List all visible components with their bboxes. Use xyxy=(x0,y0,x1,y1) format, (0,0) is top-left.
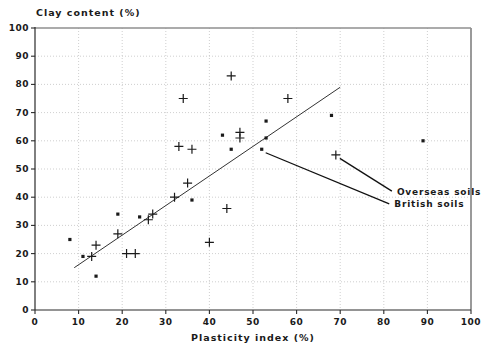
y-tick-label-70: 70 xyxy=(15,108,29,118)
y-tick-label-90: 90 xyxy=(15,51,29,61)
british-soils-point xyxy=(330,114,333,117)
british-soils-point xyxy=(230,148,233,151)
y-tick-label-30: 30 xyxy=(15,220,29,230)
data-points xyxy=(68,71,424,277)
y-tick-label-20: 20 xyxy=(15,249,29,259)
overseas-soils-point xyxy=(131,249,140,258)
british-soils-point xyxy=(221,134,224,137)
y-tick-label-50: 50 xyxy=(15,164,29,174)
british-soils-point xyxy=(190,198,193,201)
y-axis-title: Clay content (%) xyxy=(36,7,141,18)
overseas-soils-point xyxy=(227,71,236,80)
x-tick-label-0: 0 xyxy=(32,317,39,327)
british-soils-point xyxy=(81,255,84,258)
overseas-soils-point xyxy=(283,94,292,103)
x-tick-label-100: 100 xyxy=(461,317,481,327)
x-tick-label-10: 10 xyxy=(72,317,86,327)
x-tick-label-30: 30 xyxy=(159,317,173,327)
y-tick-label-60: 60 xyxy=(15,136,29,146)
plot-canvas: 0102030405060708090100010203040506070809… xyxy=(0,0,490,355)
british-soils-point xyxy=(260,148,263,151)
x-tick-label-60: 60 xyxy=(290,317,304,327)
overseas-soils-point xyxy=(148,210,157,219)
x-tick-label-20: 20 xyxy=(115,317,129,327)
x-tick-label-80: 80 xyxy=(377,317,391,327)
british-soils-point xyxy=(264,136,267,139)
british-soils-point xyxy=(68,238,71,241)
british-soils-point xyxy=(138,215,141,218)
british-soils-point xyxy=(264,119,267,122)
annotations: Overseas soilsBritish soils xyxy=(266,153,482,210)
british-soils-point xyxy=(421,139,424,142)
y-tick-label-80: 80 xyxy=(15,79,29,89)
british-soils-point xyxy=(116,213,119,216)
overseas-soils-point xyxy=(122,249,131,258)
gridlines xyxy=(35,28,471,310)
overseas-soils-point xyxy=(144,215,153,224)
y-tick-label-40: 40 xyxy=(15,192,29,202)
x-tick-label-50: 50 xyxy=(246,317,260,327)
overseas-soils-point xyxy=(179,94,188,103)
overseas-soils-point xyxy=(92,241,101,250)
overseas-soils-point xyxy=(183,179,192,188)
x-tick-label-70: 70 xyxy=(333,317,347,327)
overseas-soils-point xyxy=(187,145,196,154)
scatter-plot-figure: 0102030405060708090100010203040506070809… xyxy=(0,0,490,355)
overseas-soils-point xyxy=(205,238,214,247)
x-axis-title: Plasticity index (%) xyxy=(191,332,315,343)
british-soils-point xyxy=(94,275,97,278)
y-tick-label-10: 10 xyxy=(15,277,29,287)
overseas-soils-label: Overseas soils xyxy=(397,187,481,197)
overseas-soils-point xyxy=(113,229,122,238)
british-soils-label: British soils xyxy=(394,199,464,209)
overseas-soils-point xyxy=(222,204,231,213)
trend-line xyxy=(74,87,340,267)
overseas-soils-point xyxy=(170,193,179,202)
y-tick-label-0: 0 xyxy=(22,305,29,315)
y-tick-label-100: 100 xyxy=(9,23,29,33)
x-tick-label-40: 40 xyxy=(203,317,217,327)
axis-ticks xyxy=(31,28,471,314)
plot-frame xyxy=(35,27,471,310)
x-tick-label-90: 90 xyxy=(421,317,435,327)
overseas-soils-point xyxy=(174,142,183,151)
overseas-soils-point xyxy=(331,150,340,159)
